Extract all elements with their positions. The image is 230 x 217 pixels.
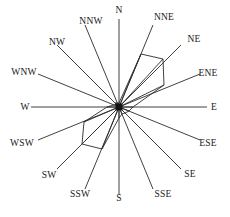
- label-WNW: WNW: [11, 67, 36, 77]
- axis-line-NW: [57, 45, 119, 107]
- axis-line-ENE: [119, 74, 200, 107]
- label-SSE: SSE: [155, 189, 172, 199]
- direction-labels-group: N NNE NE ENE E ESE SE SSE S SSW SW WSW W…: [10, 5, 217, 203]
- label-W: W: [20, 102, 29, 112]
- data-radius-NE: [119, 59, 163, 107]
- label-E: E: [211, 102, 217, 112]
- wind-rose-figure: N NNE NE ENE E ESE SE SSE S SSW SW WSW W…: [0, 0, 230, 217]
- label-NW: NW: [49, 37, 65, 47]
- axis-line-NE: [119, 45, 181, 107]
- label-NNE: NNE: [154, 12, 174, 22]
- axis-line-SE: [119, 107, 181, 169]
- data-radii-group: [82, 54, 164, 149]
- data-radius-SW: [82, 107, 119, 144]
- label-S: S: [116, 193, 121, 203]
- wind-rose-plot-area: N NNE NE ENE E ESE SE SSE S SSW SW WSW W…: [0, 0, 230, 217]
- axis-line-ESE: [119, 107, 200, 140]
- label-WSW: WSW: [10, 138, 34, 148]
- label-SSW: SSW: [70, 189, 90, 199]
- axis-line-SSE: [119, 107, 153, 189]
- axis-line-WNW: [38, 74, 119, 107]
- label-N: N: [115, 5, 122, 15]
- label-ESE: ESE: [199, 138, 217, 148]
- label-NNW: NNW: [79, 16, 102, 26]
- label-ENE: ENE: [198, 68, 217, 78]
- origin-marker: [116, 104, 123, 111]
- axis-line-NNW: [85, 25, 119, 107]
- label-SE: SE: [184, 169, 196, 179]
- label-NE: NE: [187, 34, 200, 44]
- wind-rose-data-polygon: [82, 54, 164, 149]
- label-SW: SW: [42, 170, 57, 180]
